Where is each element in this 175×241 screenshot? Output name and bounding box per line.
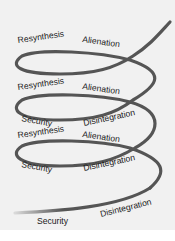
label-security-3: Security [21, 159, 54, 174]
spiral-curve: Resynthesis Alienation Resynthesis Alien… [0, 0, 175, 230]
label-disintegration-2: Disintegration [82, 107, 136, 128]
label-disintegration-3: Disintegration [82, 152, 136, 173]
label-resynthesis-2: Resynthesis [17, 76, 65, 92]
label-security-4: Security [37, 216, 69, 226]
bottom-margin [0, 230, 175, 241]
label-resynthesis-1: Resynthesis [17, 29, 65, 45]
label-resynthesis-3: Resynthesis [17, 124, 65, 140]
spiral-diagram: Resynthesis Alienation Resynthesis Alien… [0, 0, 175, 230]
label-alienation-2: Alienation [82, 81, 121, 96]
label-alienation-1: Alienation [82, 34, 121, 49]
